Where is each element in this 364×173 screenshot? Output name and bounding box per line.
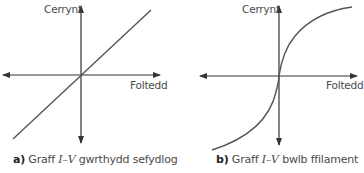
- graph-b-caption-iv: I–V: [262, 153, 279, 166]
- graph-b-caption-letter: b): [216, 153, 229, 166]
- graph-a-y-axis-label: Cerrynt: [44, 3, 82, 15]
- graph-b-caption-prefix: Graff: [232, 153, 259, 166]
- graph-b: [200, 6, 357, 150]
- graph-b-x-axis-label: Foltedd: [326, 79, 364, 91]
- graph-a-caption-prefix: Graff: [28, 153, 55, 166]
- graph-a-x-axis-label: Foltedd: [130, 79, 168, 91]
- graph-b-y-axis-label: Cerrynt: [242, 3, 280, 15]
- graph-a: [3, 6, 160, 143]
- graph-a-caption-letter: a): [13, 153, 25, 166]
- graph-b-caption: b) Graff I–V bwlb ffilament: [216, 153, 358, 166]
- graph-a-caption: a) Graff I–V gwrthydd sefydlog: [13, 153, 178, 166]
- graph-a-caption-suffix: gwrthydd sefydlog: [79, 153, 178, 166]
- graph-a-caption-iv: I–V: [58, 153, 75, 166]
- graph-b-caption-suffix: bwlb ffilament: [282, 153, 358, 166]
